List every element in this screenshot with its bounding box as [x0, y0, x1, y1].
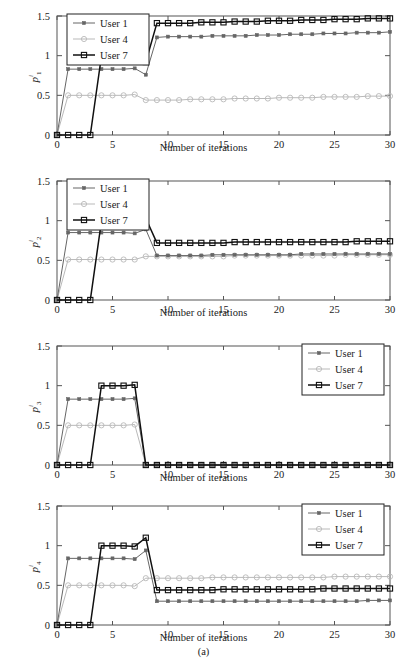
x-axis-label-p1: Number of iterations — [0, 142, 407, 153]
legend-p3: User 1User 4User 7 — [302, 344, 384, 395]
data-point — [67, 398, 70, 401]
data-point — [133, 67, 136, 70]
y-tick-label: 1 — [45, 380, 50, 391]
data-point — [178, 254, 181, 257]
legend-label-1: User 4 — [335, 364, 363, 375]
series-line — [57, 425, 390, 465]
series-user-1 — [56, 397, 392, 467]
data-point — [389, 30, 392, 33]
data-point — [122, 231, 125, 234]
y-tick-label: 0.5 — [37, 90, 50, 101]
data-point — [89, 398, 92, 401]
legend-p1: User 1User 4User 7 — [67, 14, 149, 65]
data-point — [333, 600, 336, 603]
data-point — [233, 34, 236, 37]
chart-panel-p3: pi3 05101520253000.511.5User 1User 4User… — [0, 332, 407, 492]
legend-label-1: User 4 — [100, 199, 128, 210]
y-tick-label: 0.5 — [37, 420, 50, 431]
data-point — [289, 33, 292, 36]
legend-label-1: User 4 — [100, 34, 128, 45]
data-point — [322, 252, 325, 255]
y-tick-label: 1.5 — [37, 176, 50, 187]
data-point — [344, 32, 347, 35]
series-user-4 — [54, 252, 392, 302]
data-point — [78, 231, 81, 234]
legend-label-0: User 1 — [335, 508, 363, 519]
data-point — [89, 68, 92, 71]
data-point — [300, 600, 303, 603]
legend-marker-0 — [83, 187, 86, 190]
data-point — [200, 600, 203, 603]
y-tick-label: 1.5 — [37, 341, 50, 352]
y-tick-label: 1 — [45, 215, 50, 226]
data-point — [178, 35, 181, 38]
y-tick-label: 0.5 — [37, 255, 50, 266]
y-tick-label: 1.5 — [37, 501, 50, 512]
data-point — [244, 253, 247, 256]
data-point — [278, 253, 281, 256]
data-point — [366, 31, 369, 34]
plot-area-p4: 05101520253000.511.5User 1User 4User 7 — [0, 492, 407, 652]
data-point — [67, 68, 70, 71]
data-point — [189, 35, 192, 38]
plot-area-p1: 05101520253000.511.5User 1User 4User 7 — [0, 2, 407, 162]
data-point — [322, 600, 325, 603]
data-point — [111, 231, 114, 234]
data-point — [266, 253, 269, 256]
data-point — [311, 33, 314, 36]
data-point — [278, 600, 281, 603]
data-point — [144, 549, 147, 552]
y-tick-label: 0 — [45, 460, 50, 471]
data-point — [222, 253, 225, 256]
data-point — [366, 252, 369, 255]
data-point — [78, 398, 81, 401]
data-point — [255, 34, 258, 37]
data-point — [189, 600, 192, 603]
x-axis-label-p3: Number of iterations — [0, 472, 407, 483]
data-point — [89, 557, 92, 560]
data-point — [167, 35, 170, 38]
data-point — [366, 599, 369, 602]
legend-marker-0 — [83, 22, 86, 25]
data-point — [255, 600, 258, 603]
data-point — [233, 600, 236, 603]
plot-area-p3: 05101520253000.511.5User 1User 4User 7 — [0, 332, 407, 492]
data-point — [78, 557, 81, 560]
data-point — [155, 36, 158, 39]
data-point — [189, 254, 192, 257]
data-point — [311, 252, 314, 255]
data-point — [266, 34, 269, 37]
data-point — [344, 252, 347, 255]
data-point — [389, 599, 392, 602]
y-tick-label: 0 — [45, 295, 50, 306]
data-point — [244, 34, 247, 37]
data-point — [67, 557, 70, 560]
figure-caption: (a) — [0, 646, 407, 657]
data-point — [167, 600, 170, 603]
data-point — [122, 557, 125, 560]
legend-p4: User 1User 4User 7 — [302, 504, 384, 555]
y-tick-label: 1 — [45, 540, 50, 551]
data-point — [377, 252, 380, 255]
data-point — [178, 600, 181, 603]
data-point — [377, 599, 380, 602]
y-tick-label: 1.5 — [37, 11, 50, 22]
chart-panel-p2: pi2 05101520253000.511.5User 1User 4User… — [0, 167, 407, 327]
legend-label-0: User 1 — [335, 348, 363, 359]
legend-label-2: User 7 — [100, 215, 128, 226]
legend-label-2: User 7 — [100, 50, 128, 61]
legend-label-1: User 4 — [335, 524, 363, 535]
data-point — [111, 557, 114, 560]
plot-area-p2: 05101520253000.511.5User 1User 4User 7 — [0, 167, 407, 327]
data-point — [355, 252, 358, 255]
data-point — [278, 34, 281, 37]
data-point — [211, 34, 214, 37]
legend-marker-0 — [318, 352, 321, 355]
data-point — [222, 600, 225, 603]
data-point — [111, 68, 114, 71]
data-point — [89, 231, 92, 234]
data-point — [233, 253, 236, 256]
x-axis-label-p2: Number of iterations — [0, 307, 407, 318]
data-point — [300, 252, 303, 255]
data-point — [355, 31, 358, 34]
